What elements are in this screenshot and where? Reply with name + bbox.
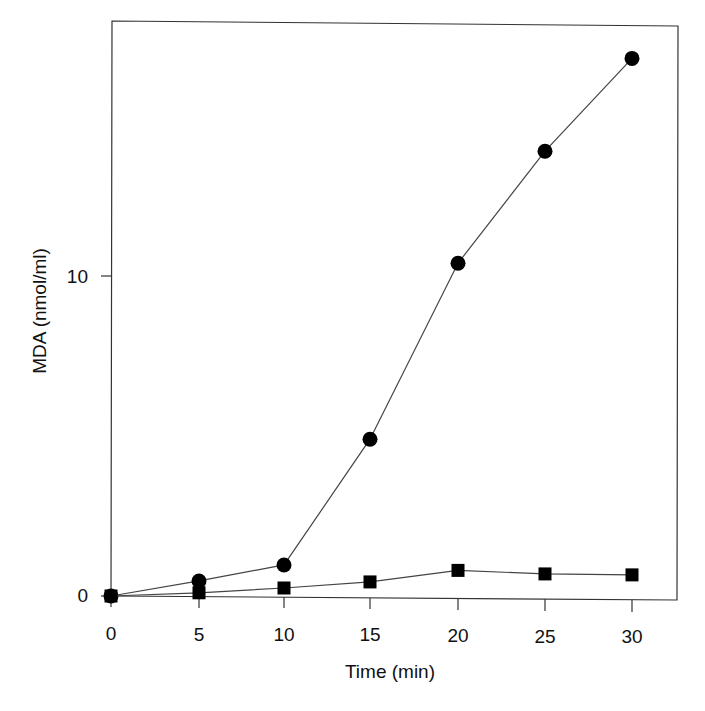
square-marker: [364, 575, 377, 588]
y-axis-title: MDA (nmol/ml): [29, 248, 50, 374]
x-tick-label: 30: [621, 626, 642, 647]
circle-marker: [192, 573, 207, 588]
x-axis-title: Time (min): [345, 661, 435, 682]
square-marker: [539, 567, 552, 580]
line-chart: 0 10 MDA (nmol/ml) 0 5 10 15 20 25 30 Ti…: [0, 0, 705, 711]
plot-frame: [111, 21, 678, 600]
series-line: [111, 58, 632, 596]
y-tick-label-10: 10: [67, 266, 88, 287]
circle-marker: [363, 432, 378, 447]
circle-marker: [625, 51, 640, 66]
series-circles: [104, 51, 640, 604]
square-marker: [626, 568, 639, 581]
y-tick-label-0: 0: [77, 585, 88, 606]
square-marker: [452, 564, 465, 577]
series-layer: [104, 51, 640, 604]
x-tick-label: 15: [359, 624, 380, 645]
y-axis: 0 10 MDA (nmol/ml): [29, 248, 112, 606]
square-marker: [278, 582, 291, 595]
circle-marker: [277, 557, 292, 572]
x-tick-label: 20: [447, 625, 468, 646]
x-tick-label: 10: [273, 624, 294, 645]
x-tick-label: 25: [534, 626, 555, 647]
square-marker: [105, 590, 118, 603]
x-axis: 0 5 10 15 20 25 30 Time (min): [106, 596, 643, 682]
circle-marker: [451, 256, 466, 271]
square-marker: [193, 586, 206, 599]
circle-marker: [538, 144, 553, 159]
x-tick-label: 0: [106, 623, 117, 644]
x-tick-label: 5: [194, 624, 205, 645]
